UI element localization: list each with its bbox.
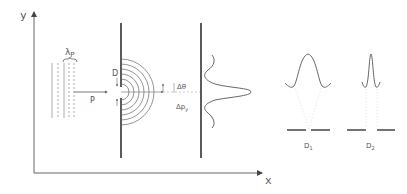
incident-wavefronts bbox=[52, 63, 74, 118]
slit-diffraction-diagram: y x λP P D Δθ Δpy bbox=[0, 0, 407, 194]
detector2-label: D2 bbox=[366, 142, 375, 151]
x-axis-label: x bbox=[265, 174, 272, 187]
detector1-projection bbox=[295, 88, 321, 129]
diffraction-pattern bbox=[205, 55, 251, 128]
delta-theta-label: Δθ bbox=[177, 83, 186, 91]
detector2-curve bbox=[362, 54, 380, 87]
detector2-projection bbox=[366, 89, 377, 128]
detector1-label: D1 bbox=[304, 142, 313, 151]
wavelength-label: λP bbox=[65, 47, 75, 59]
delta-py-label: Δpy bbox=[176, 103, 188, 113]
slit-width-label: D bbox=[112, 69, 118, 78]
detector1-curve bbox=[285, 54, 331, 87]
momentum-label: P bbox=[90, 96, 95, 105]
y-axis-label: y bbox=[20, 9, 27, 22]
